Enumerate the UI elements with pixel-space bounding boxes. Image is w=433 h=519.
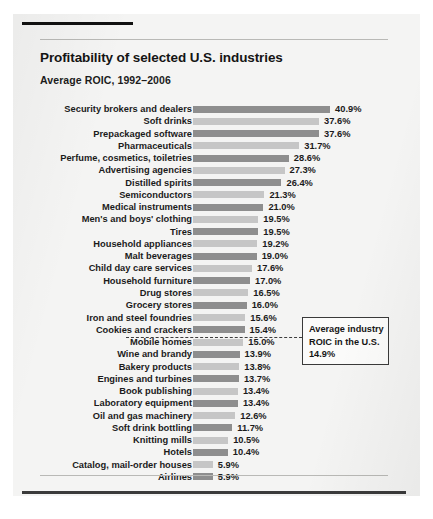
chart-row: Household appliances19.2% <box>0 239 433 251</box>
bar-category-label: Hotels <box>164 447 192 457</box>
chart-row: Advertising agencies27.3% <box>0 165 433 177</box>
bar-category-label: Perfume, cosmetics, toiletries <box>60 153 192 163</box>
bar-value-label: 16.0% <box>252 300 278 310</box>
bar-value-label: 37.6% <box>324 129 350 139</box>
bar-value-label: 5.9% <box>218 472 239 482</box>
bar-category-label: Soft drinks <box>143 116 192 126</box>
chart-row: Knitting mills10.5% <box>0 435 433 447</box>
bar <box>193 351 240 358</box>
bar-value-label: 27.3% <box>290 165 316 175</box>
bar-value-label: 13.9% <box>245 349 271 359</box>
bar-value-label: 28.6% <box>294 153 320 163</box>
bar <box>193 228 258 235</box>
bar-value-label: 15.6% <box>250 313 276 323</box>
chart-row: Child day care services17.6% <box>0 263 433 275</box>
bar-category-label: Book publishing <box>119 386 192 396</box>
chart-row: Prepackaged software37.6% <box>0 129 433 141</box>
bar-value-label: 37.6% <box>324 116 350 126</box>
bar-value-label: 21.3% <box>269 190 295 200</box>
bar <box>193 289 248 296</box>
bar-value-label: 19.2% <box>262 239 288 249</box>
chart-row: Airlines5.9% <box>0 472 433 484</box>
bar-category-label: Prepackaged software <box>93 129 192 139</box>
bar <box>193 216 258 223</box>
chart-row: Pharmaceuticals31.7% <box>0 141 433 153</box>
bar-value-label: 19.5% <box>263 214 289 224</box>
bar-value-label: 17.0% <box>255 276 281 286</box>
bar <box>193 142 299 149</box>
bar-value-label: 13.7% <box>244 374 270 384</box>
bar-category-label: Malt beverages <box>125 251 192 261</box>
bar-category-label: Knitting mills <box>133 435 192 445</box>
bar-category-label: Child day care services <box>89 263 192 273</box>
bar <box>193 167 285 174</box>
annotation-line-3: 14.9% <box>309 348 383 361</box>
chart-row: Tires19.5% <box>0 227 433 239</box>
bar-category-label: Laboratory equipment <box>94 398 192 408</box>
bar-category-label: Household appliances <box>93 239 192 249</box>
bar <box>193 400 238 407</box>
chart-page: Profitability of selected U.S. industrie… <box>0 0 433 519</box>
bar-category-label: Medical instruments <box>102 202 192 212</box>
bar <box>193 302 247 309</box>
bar-chart-rows: Security brokers and dealers40.9%Soft dr… <box>0 104 433 484</box>
bar <box>193 449 228 456</box>
bar-category-label: Engines and turbines <box>97 374 192 384</box>
chart-row: Oil and gas machinery12.6% <box>0 411 433 423</box>
bar <box>193 179 281 186</box>
bar-category-label: Tires <box>170 227 192 237</box>
bar <box>193 277 250 284</box>
bar <box>193 240 257 247</box>
bar-value-label: 10.4% <box>233 447 259 457</box>
bar-value-label: 16.5% <box>253 288 279 298</box>
bar-category-label: Household furniture <box>103 276 192 286</box>
bar-value-label: 19.5% <box>263 227 289 237</box>
chart-row: Semiconductors21.3% <box>0 190 433 202</box>
chart-row: Medical instruments21.0% <box>0 202 433 214</box>
bar-value-label: 13.4% <box>243 386 269 396</box>
chart-row: Soft drinks37.6% <box>0 116 433 128</box>
chart-row: Household furniture17.0% <box>0 276 433 288</box>
bar <box>193 437 228 444</box>
bar-category-label: Airlines <box>158 472 192 482</box>
chart-row: Soft drink bottling11.7% <box>0 423 433 435</box>
bar-category-label: Security brokers and dealers <box>64 104 192 114</box>
bar-category-label: Drug stores <box>140 288 192 298</box>
bar-value-label: 13.8% <box>244 362 270 372</box>
bar-category-label: Grocery stores <box>126 300 192 310</box>
chart-row: Security brokers and dealers40.9% <box>0 104 433 116</box>
annotation-leader-line <box>126 337 302 338</box>
bar-value-label: 17.6% <box>257 263 283 273</box>
bar <box>193 106 330 113</box>
bottom-thin-rule <box>40 475 388 476</box>
bar <box>193 130 319 137</box>
bar-value-label: 13.4% <box>243 398 269 408</box>
bar-category-label: Iron and steel foundries <box>87 313 192 323</box>
average-roic-annotation: Average industry ROIC in the U.S. 14.9% <box>302 317 389 365</box>
bar-category-label: Distilled spirits <box>125 178 192 188</box>
chart-row: Laboratory equipment13.4% <box>0 398 433 410</box>
bar-value-label: 11.7% <box>237 423 263 433</box>
chart-row: Book publishing13.4% <box>0 386 433 398</box>
bar-value-label: 15.0% <box>248 337 274 347</box>
bar <box>193 424 232 431</box>
bottom-thick-rule <box>22 491 406 494</box>
page-subtitle: Average ROIC, 1992–2006 <box>40 74 171 86</box>
bar-category-label: Oil and gas machinery <box>93 411 192 421</box>
bar <box>193 118 319 125</box>
bar-category-label: Bakery products <box>119 362 192 372</box>
bar <box>193 253 257 260</box>
chart-row: Perfume, cosmetics, toiletries28.6% <box>0 153 433 165</box>
bar-category-label: Wine and brandy <box>117 349 192 359</box>
bar-value-label: 31.7% <box>304 141 330 151</box>
bar-category-label: Pharmaceuticals <box>118 141 192 151</box>
bar-category-label: Advertising agencies <box>98 165 192 175</box>
bar <box>193 375 239 382</box>
bar <box>193 363 239 370</box>
bar-category-label: Men's and boys' clothing <box>82 214 192 224</box>
bar-value-label: 12.6% <box>240 411 266 421</box>
top-thick-rule <box>22 22 133 25</box>
bar <box>193 412 235 419</box>
bar <box>193 326 245 333</box>
bar-value-label: 15.4% <box>250 325 276 335</box>
